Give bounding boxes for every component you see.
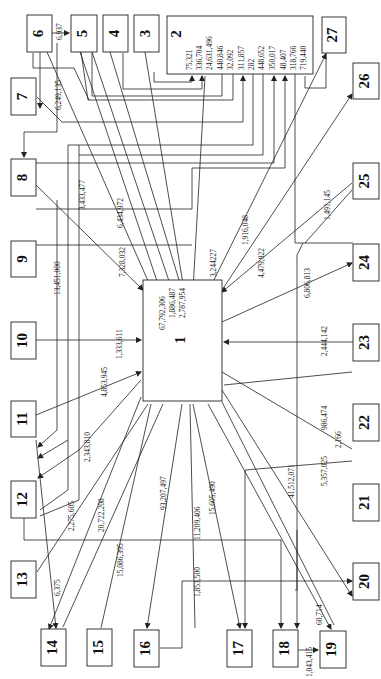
svg-text:24: 24: [356, 255, 372, 271]
svg-text:1,333,611: 1,333,611: [115, 329, 124, 359]
svg-text:3,244227: 3,244227: [209, 249, 218, 277]
svg-text:32,092: 32,092: [226, 49, 235, 70]
node-24[interactable]: 24: [353, 244, 379, 281]
node-15[interactable]: 15: [87, 629, 112, 666]
svg-text:6: 6: [30, 29, 46, 37]
svg-text:15: 15: [90, 640, 106, 655]
svg-text:6,434,972: 6,434,972: [116, 198, 125, 228]
node-5[interactable]: 5: [71, 15, 97, 52]
node-10[interactable]: 10: [11, 322, 36, 359]
svg-text:13,451,000: 13,451,000: [53, 261, 62, 295]
svg-text:27: 27: [324, 27, 340, 43]
svg-text:6,806,813: 6,806,813: [303, 268, 312, 298]
svg-text:17: 17: [230, 641, 246, 657]
node-19[interactable]: 19: [320, 631, 346, 668]
node-14[interactable]: 14: [41, 629, 66, 666]
node-8[interactable]: 8: [11, 159, 36, 196]
node-22[interactable]: 22: [353, 404, 379, 441]
svg-text:440,846: 440,846: [216, 45, 225, 70]
node-11[interactable]: 11: [11, 401, 36, 437]
svg-text:4,479,922: 4,479,922: [257, 248, 266, 278]
svg-text:3: 3: [137, 30, 153, 38]
svg-text:7: 7: [14, 92, 30, 100]
svg-text:1,043,415: 1,043,415: [305, 647, 314, 677]
svg-text:21: 21: [356, 495, 372, 510]
flow-diagram: 6 5 4 3 2 27 7 26 8 25 9 24: [0, 0, 381, 679]
svg-text:18: 18: [276, 641, 292, 656]
node-21[interactable]: 21: [353, 484, 379, 521]
svg-text:48,407: 48,407: [279, 49, 288, 70]
svg-text:11: 11: [14, 412, 30, 426]
svg-text:15,605,490: 15,605,490: [208, 481, 217, 515]
svg-text:6,937: 6,937: [55, 23, 64, 40]
node-18[interactable]: 18: [273, 630, 298, 667]
svg-text:14: 14: [44, 640, 60, 656]
svg-text:93,207,497: 93,207,497: [159, 476, 168, 510]
svg-text:1,491,145: 1,491,145: [323, 190, 332, 220]
node-3[interactable]: 3: [134, 15, 159, 52]
svg-text:75,321: 75,321: [185, 49, 194, 70]
svg-text:24,631,496: 24,631,496: [205, 36, 214, 70]
svg-text:7,328,032: 7,328,032: [118, 247, 127, 277]
svg-text:311,857: 311,857: [237, 46, 246, 70]
svg-text:2,166: 2,166: [334, 431, 343, 448]
svg-text:1,916,048: 1,916,048: [241, 215, 250, 245]
svg-text:23: 23: [356, 335, 372, 350]
svg-text:4: 4: [106, 29, 122, 37]
svg-text:986,474: 986,474: [320, 405, 329, 430]
svg-text:13: 13: [14, 572, 30, 587]
svg-text:26: 26: [356, 73, 372, 89]
svg-text:67,792,306: 67,792,306: [158, 296, 167, 330]
svg-text:4,853,945: 4,853,945: [100, 367, 109, 397]
svg-text:350,017: 350,017: [268, 45, 277, 70]
node-26[interactable]: 26: [353, 63, 379, 99]
svg-text:15,086,395: 15,086,395: [116, 543, 125, 577]
svg-text:12: 12: [14, 492, 30, 507]
svg-text:2,444,142: 2,444,142: [320, 326, 329, 356]
svg-text:282: 282: [247, 59, 256, 71]
svg-text:41,512,071: 41,512,071: [287, 464, 296, 498]
node-4[interactable]: 4: [103, 15, 128, 52]
svg-text:336,704: 336,704: [195, 45, 204, 70]
svg-text:2: 2: [168, 30, 184, 38]
svg-text:5,357,025: 5,357,025: [320, 456, 329, 486]
svg-text:25: 25: [356, 174, 372, 189]
node-20[interactable]: 20: [353, 563, 379, 600]
svg-text:9: 9: [14, 255, 30, 263]
svg-text:19: 19: [323, 642, 339, 657]
node-17[interactable]: 17: [227, 630, 252, 667]
svg-text:10: 10: [14, 333, 30, 348]
svg-text:318,766: 318,766: [289, 45, 298, 70]
node-6[interactable]: 6: [27, 15, 52, 52]
svg-text:20,722,208: 20,722,208: [97, 498, 106, 532]
svg-text:3,433,477: 3,433,477: [78, 180, 87, 210]
svg-text:20: 20: [356, 574, 372, 589]
svg-text:2,343,810: 2,343,810: [83, 432, 92, 462]
svg-text:6,249,135: 6,249,135: [54, 80, 63, 110]
svg-text:6,375: 6,375: [53, 579, 62, 596]
svg-text:2,787,954: 2,787,954: [178, 288, 187, 318]
node-23[interactable]: 23: [353, 324, 379, 361]
node-16[interactable]: 16: [134, 630, 159, 667]
svg-text:8: 8: [14, 174, 30, 182]
svg-text:22: 22: [356, 415, 372, 430]
node-27[interactable]: 27: [322, 17, 346, 53]
svg-text:60,714: 60,714: [315, 604, 324, 625]
svg-text:5: 5: [74, 30, 90, 38]
svg-text:11,209,406: 11,209,406: [193, 506, 202, 540]
node-13[interactable]: 13: [11, 561, 36, 598]
svg-text:1: 1: [173, 337, 188, 344]
svg-text:1,886,487: 1,886,487: [168, 288, 177, 318]
node-12[interactable]: 12: [11, 481, 36, 518]
svg-text:1,853,500: 1,853,500: [193, 567, 202, 597]
node-25[interactable]: 25: [353, 163, 379, 199]
node-7[interactable]: 7: [11, 78, 36, 115]
svg-text:16: 16: [137, 641, 153, 657]
node-9[interactable]: 9: [11, 241, 36, 277]
svg-text:719,440: 719,440: [299, 45, 308, 70]
svg-text:2,275,605: 2,275,605: [67, 501, 76, 531]
svg-text:448,652: 448,652: [257, 45, 266, 70]
